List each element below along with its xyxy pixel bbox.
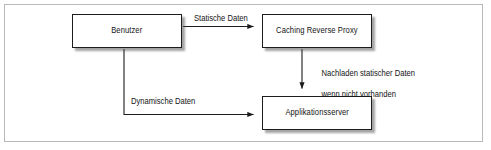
node-caching-reverse-proxy-label: Caching Reverse Proxy (276, 27, 358, 35)
edge-label-dynamische-daten: Dynamische Daten (131, 97, 195, 108)
node-benutzer-label: Benutzer (111, 27, 142, 35)
edge-label-statische-daten: Statische Daten (194, 14, 248, 25)
edge-label-nachladen-line2: wenn nicht vorhanden (321, 90, 396, 99)
edge-label-nachladen: Nachladen statischer Daten wenn nicht vo… (313, 58, 415, 111)
diagram-figure: Benutzer Caching Reverse Proxy Applikati… (0, 0, 491, 150)
node-benutzer[interactable]: Benutzer (72, 14, 182, 48)
node-caching-reverse-proxy[interactable]: Caching Reverse Proxy (262, 14, 372, 48)
edge-label-nachladen-line1: Nachladen statischer Daten (321, 69, 415, 78)
